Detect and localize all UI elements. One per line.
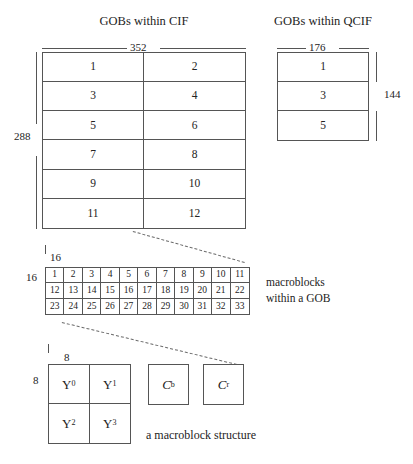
macroblock-cell[interactable]: 25 (83, 299, 101, 314)
luma-block-y3[interactable]: Y3 (90, 404, 131, 443)
macroblock-cell[interactable]: 18 (157, 283, 175, 298)
block-width-label: 8 (64, 352, 70, 363)
cif-height-rule-top (36, 52, 37, 124)
chroma-block-cr[interactable]: Cr (203, 364, 244, 405)
macroblock-cell[interactable]: 24 (64, 299, 82, 314)
cif-height-dimension: 288 (14, 52, 42, 229)
cif-width-rule-right (160, 48, 246, 49)
macroblock-cell[interactable]: 11 (231, 268, 249, 283)
luma-block-y1[interactable]: Y1 (90, 365, 131, 404)
block-height-label: 8 (33, 375, 39, 386)
macroblock-cell[interactable]: 2 (64, 268, 82, 283)
macroblock-cell[interactable]: 14 (83, 283, 101, 298)
luma-block-y0[interactable]: Y0 (49, 365, 90, 404)
cif-gob-cell[interactable]: 9 (43, 170, 144, 199)
cif-gob-cell[interactable]: 6 (144, 111, 245, 140)
macroblock-cell[interactable]: 3 (83, 268, 101, 283)
macroblock-cell[interactable]: 21 (212, 283, 230, 298)
macroblock-cell[interactable]: 33 (231, 299, 249, 314)
luma-block-subscript: 1 (112, 380, 116, 388)
macroblocks-note-line2: within a GOB (266, 291, 331, 307)
macroblock-cell[interactable]: 26 (101, 299, 119, 314)
macroblock-cell[interactable]: 28 (138, 299, 156, 314)
cif-gob-grid: 1 2 3 4 5 6 7 8 9 10 11 12 (42, 52, 246, 229)
macroblock-cell[interactable]: 13 (64, 283, 82, 298)
cif-width-rule-left (42, 48, 127, 49)
cif-height-rule-bottom (36, 156, 37, 229)
macroblock-cell[interactable]: 15 (101, 283, 119, 298)
cif-gob-cell[interactable]: 3 (43, 82, 144, 111)
qcif-width-rule-left (277, 48, 306, 49)
cif-title: GOBs within CIF (42, 14, 246, 29)
macroblock-cell[interactable]: 10 (212, 268, 230, 283)
luma-block-subscript: 3 (112, 419, 116, 427)
luma-block-symbol: Y (62, 417, 71, 430)
luma-block-symbol: Y (62, 378, 71, 391)
macroblock-cell[interactable]: 19 (175, 283, 193, 298)
qcif-width-rule-right (339, 48, 369, 49)
macroblock-width-label: 16 (50, 252, 61, 263)
luma-block-symbol: Y (103, 378, 112, 391)
luma-block-symbol: Y (103, 417, 112, 430)
macroblock-cell[interactable]: 12 (46, 283, 64, 298)
block-width-tick (48, 344, 49, 353)
qcif-gob-cell[interactable]: 3 (278, 82, 368, 111)
chroma-block-symbol: C (218, 377, 227, 393)
qcif-height-label: 144 (384, 89, 401, 100)
chroma-block-subscript: b (171, 380, 175, 389)
macroblock-cell[interactable]: 6 (138, 268, 156, 283)
qcif-height-rule-bottom (376, 111, 377, 141)
macroblocks-note: macroblocks within a GOB (266, 275, 331, 306)
cif-gob-cell[interactable]: 12 (144, 199, 245, 228)
macroblock-cell[interactable]: 8 (175, 268, 193, 283)
cif-height-label: 288 (14, 131, 31, 142)
macroblock-cell[interactable]: 31 (194, 299, 212, 314)
chroma-block-subscript: r (226, 380, 229, 389)
macroblock-cell[interactable]: 16 (120, 283, 138, 298)
figure-caption: a macroblock structure (146, 428, 256, 443)
macroblock-cell[interactable]: 22 (231, 283, 249, 298)
leader-line-macroblock-to-blocks (62, 322, 237, 365)
qcif-gob-cell[interactable]: 1 (278, 53, 368, 82)
qcif-height-dimension: 144 (376, 52, 413, 141)
macroblock-cell[interactable]: 1 (46, 268, 64, 283)
cif-gob-cell[interactable]: 8 (144, 140, 245, 169)
luma-block-subscript: 2 (71, 419, 75, 427)
leader-line-gob-to-macroblocks (133, 231, 245, 263)
macroblock-grid: 1 2 3 4 5 6 7 8 9 10 11 12 13 14 15 16 1… (45, 267, 250, 315)
cif-gob-cell[interactable]: 4 (144, 82, 245, 111)
cif-gob-cell[interactable]: 11 (43, 199, 144, 228)
macroblock-cell[interactable]: 17 (138, 283, 156, 298)
macroblock-height-label: 16 (26, 272, 37, 283)
chroma-block-cb[interactable]: Cb (148, 364, 189, 405)
luma-block-y2[interactable]: Y2 (49, 404, 90, 443)
cif-gob-cell[interactable]: 2 (144, 53, 245, 82)
macroblock-cell[interactable]: 7 (157, 268, 175, 283)
chroma-block-symbol: C (162, 377, 171, 393)
macroblock-cell[interactable]: 30 (175, 299, 193, 314)
cif-gob-cell[interactable]: 1 (43, 53, 144, 82)
macroblock-cell[interactable]: 32 (212, 299, 230, 314)
macroblock-cell[interactable]: 27 (120, 299, 138, 314)
macroblocks-note-line1: macroblocks (266, 275, 331, 291)
macroblock-cell[interactable]: 9 (194, 268, 212, 283)
qcif-gob-cell[interactable]: 5 (278, 111, 368, 140)
cif-gob-cell[interactable]: 5 (43, 111, 144, 140)
qcif-height-rule-top (376, 52, 377, 82)
macroblock-cell[interactable]: 29 (157, 299, 175, 314)
macroblock-width-tick (45, 245, 46, 254)
macroblock-cell[interactable]: 5 (120, 268, 138, 283)
luma-block-grid: Y0 Y1 Y2 Y3 (48, 364, 131, 444)
macroblock-cell[interactable]: 4 (101, 268, 119, 283)
cif-gob-cell[interactable]: 10 (144, 170, 245, 199)
cif-gob-cell[interactable]: 7 (43, 140, 144, 169)
macroblock-cell[interactable]: 23 (46, 299, 64, 314)
luma-block-subscript: 0 (71, 380, 75, 388)
macroblock-cell[interactable]: 20 (194, 283, 212, 298)
qcif-gob-grid: 1 3 5 (277, 52, 369, 141)
qcif-title: GOBs within QCIF (262, 14, 384, 29)
